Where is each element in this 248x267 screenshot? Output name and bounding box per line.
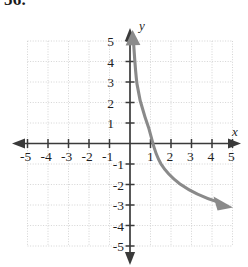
x-axis <box>12 138 241 148</box>
y-axis-label: y <box>137 18 145 33</box>
x-axis-label: x <box>231 124 238 139</box>
y-tick-label: -2 <box>113 178 124 193</box>
x-tick-label: 5 <box>228 149 235 164</box>
x-tick-label: -2 <box>82 149 93 164</box>
y-tick-label: -5 <box>113 239 124 254</box>
y-tick-label: 5 <box>107 34 114 49</box>
x-tick-label: 3 <box>187 149 194 164</box>
x-axis-left-arrowhead <box>12 138 25 148</box>
y-tick-label: -3 <box>113 198 124 213</box>
coordinate-plane: -5 -4 -3 -2 -1 1 2 3 4 5 5 4 3 2 1 -1 -2… <box>0 0 248 267</box>
math-figure: 56. <box>0 0 248 267</box>
y-axis-bottom-arrowhead <box>125 252 135 265</box>
x-tick-label: 1 <box>147 149 154 164</box>
x-axis-right-arrowhead <box>228 138 241 148</box>
y-tick-label: 2 <box>107 96 114 111</box>
x-tick-label: -3 <box>61 149 72 164</box>
y-tick-label: -4 <box>113 219 124 234</box>
y-tick-label: 4 <box>107 55 114 70</box>
curve-right-arrowhead <box>214 197 234 211</box>
y-tick-label: 1 <box>107 116 114 131</box>
x-tick-label: 4 <box>208 149 215 164</box>
problem-number: 56. <box>4 0 26 8</box>
plotted-curve <box>126 30 233 211</box>
x-tick-label: -4 <box>41 149 52 164</box>
curve-path <box>134 43 218 202</box>
x-tick-labels: -5 -4 -3 -2 -1 1 2 3 4 5 <box>20 149 235 164</box>
x-tick-label: -5 <box>20 149 31 164</box>
x-tick-label: 2 <box>167 149 174 164</box>
y-tick-label: 3 <box>107 75 114 90</box>
x-tick-label: -1 <box>102 149 113 164</box>
y-tick-label: -1 <box>113 157 124 172</box>
